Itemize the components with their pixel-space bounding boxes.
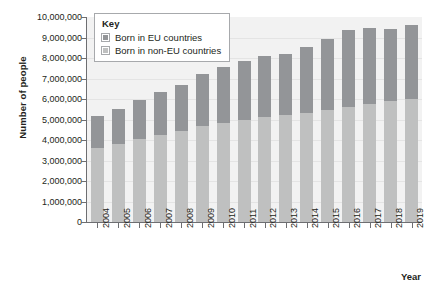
legend-label: Born in EU countries — [115, 32, 202, 43]
bar-segment-non-eu[interactable] — [405, 99, 418, 222]
legend-label: Born in non-EU countries — [115, 45, 221, 56]
bar-segment-eu[interactable] — [196, 74, 209, 125]
y-axis-tick — [81, 38, 86, 39]
bar-segment-eu[interactable] — [154, 92, 167, 135]
x-axis-tick-label: 2010 — [227, 208, 237, 228]
bar-group[interactable] — [133, 100, 146, 222]
y-axis-tick — [81, 120, 86, 121]
y-axis-tick-label: 2,000,000 — [20, 176, 82, 186]
x-axis-tick-labels: 2004200520062007200820092010201120122013… — [87, 228, 422, 270]
x-axis-tick-label: 2015 — [331, 208, 341, 228]
bar-group[interactable] — [91, 116, 104, 222]
bar-segment-eu[interactable] — [91, 116, 104, 148]
legend-entry: Born in non-EU countries — [101, 45, 221, 56]
x-axis-tick-label: 2011 — [248, 209, 258, 228]
bar-segment-non-eu[interactable] — [321, 110, 334, 222]
bar-group[interactable] — [112, 109, 125, 222]
bar-group[interactable] — [258, 56, 271, 222]
legend-entries: Born in EU countriesBorn in non-EU count… — [101, 32, 221, 56]
bar-segment-eu[interactable] — [112, 109, 125, 144]
chart-legend: Key Born in EU countriesBorn in non-EU c… — [94, 13, 230, 62]
bar-segment-non-eu[interactable] — [300, 113, 313, 222]
x-axis-tick-label: 2012 — [268, 208, 278, 228]
bar-segment-eu[interactable] — [175, 85, 188, 131]
x-axis-tick-label: 2017 — [373, 208, 383, 228]
legend-swatch-icon — [101, 46, 110, 55]
bar-group[interactable] — [405, 25, 418, 222]
y-axis-tick-label: 4,000,000 — [20, 135, 82, 145]
bar-group[interactable] — [238, 61, 251, 222]
y-axis-tick-label: 10,000,000 — [20, 12, 82, 22]
y-axis-tick — [81, 222, 86, 223]
y-axis-tick — [81, 161, 86, 162]
y-axis-tick-label: 8,000,000 — [20, 53, 82, 63]
y-axis-tick-label: 7,000,000 — [20, 74, 82, 84]
y-axis-tick-label: 6,000,000 — [20, 94, 82, 104]
x-axis-tick-label: 2016 — [352, 208, 362, 228]
legend-title: Key — [102, 18, 221, 29]
legend-swatch-icon — [101, 33, 110, 42]
bar-segment-non-eu[interactable] — [238, 120, 251, 223]
y-axis-tick — [81, 140, 86, 141]
bar-group[interactable] — [363, 28, 376, 222]
bar-segment-eu[interactable] — [405, 25, 418, 99]
x-axis-tick-label: 2019 — [415, 208, 425, 228]
stacked-bar-chart: Number of people 01,000,0002,000,0003,00… — [0, 0, 427, 288]
bar-group[interactable] — [321, 39, 334, 222]
y-axis-tick — [81, 79, 86, 80]
bar-group[interactable] — [384, 29, 397, 222]
y-axis-tick-label: 1,000,000 — [20, 197, 82, 207]
bar-segment-eu[interactable] — [321, 39, 334, 111]
bar-segment-eu[interactable] — [133, 100, 146, 139]
x-axis-tick-label: 2004 — [101, 208, 111, 228]
bar-segment-non-eu[interactable] — [363, 104, 376, 222]
legend-entry: Born in EU countries — [101, 32, 221, 43]
x-axis-tick-label: 2005 — [122, 208, 132, 228]
bar-segment-eu[interactable] — [363, 28, 376, 104]
y-axis-tick-labels: 01,000,0002,000,0003,000,0004,000,0005,0… — [20, 0, 82, 288]
bar-segment-non-eu[interactable] — [258, 117, 271, 222]
bar-group[interactable] — [300, 47, 313, 222]
y-axis-tick — [81, 202, 86, 203]
y-axis-tick — [81, 99, 86, 100]
bar-segment-eu[interactable] — [279, 54, 292, 116]
y-axis-tick-label: 3,000,000 — [20, 156, 82, 166]
bar-segment-eu[interactable] — [217, 67, 230, 122]
x-axis-tick-label: 2007 — [164, 208, 174, 228]
x-axis-tick-label: 2006 — [143, 208, 153, 228]
bar-segment-eu[interactable] — [342, 30, 355, 107]
y-axis-tick — [81, 181, 86, 182]
y-axis-tick — [81, 17, 86, 18]
bar-group[interactable] — [154, 92, 167, 222]
y-axis-tick-label: 5,000,000 — [20, 115, 82, 125]
x-axis-title: Year — [401, 271, 421, 282]
x-axis-tick-label: 2014 — [310, 208, 320, 228]
y-axis-tick-label: 9,000,000 — [20, 33, 82, 43]
bar-group[interactable] — [217, 67, 230, 222]
bar-segment-eu[interactable] — [238, 61, 251, 119]
bar-group[interactable] — [342, 30, 355, 222]
bar-segment-non-eu[interactable] — [384, 101, 397, 222]
bar-segment-non-eu[interactable] — [279, 115, 292, 222]
x-axis-tick-label: 2009 — [206, 208, 216, 228]
bar-group[interactable] — [279, 54, 292, 222]
bar-group[interactable] — [196, 74, 209, 222]
x-axis-tick-label: 2008 — [185, 208, 195, 228]
y-axis-tick-label: 0 — [20, 217, 82, 227]
bar-group[interactable] — [175, 85, 188, 222]
bar-segment-eu[interactable] — [384, 29, 397, 101]
bar-segment-eu[interactable] — [300, 47, 313, 114]
x-axis-tick-label: 2013 — [289, 208, 299, 228]
bar-segment-non-eu[interactable] — [342, 107, 355, 222]
bar-segment-eu[interactable] — [258, 56, 271, 118]
y-axis-tick — [81, 58, 86, 59]
x-axis-tick-label: 2018 — [394, 208, 404, 228]
